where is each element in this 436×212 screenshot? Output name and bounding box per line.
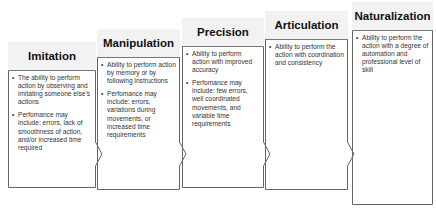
stage-articulation: Articulation Ability to perform the acti… bbox=[265, 11, 348, 190]
stage-description: Ability to perform the action with a deg… bbox=[356, 34, 429, 79]
stage-precision: Precision Ability to perform action with… bbox=[182, 18, 264, 188]
stage-description: The ability to perform action by observi… bbox=[12, 74, 92, 157]
stage-title: Manipulation bbox=[97, 29, 180, 58]
stage-outline bbox=[352, 2, 433, 205]
stage-title: Naturalization bbox=[352, 2, 433, 31]
stage-naturalization: Naturalization Ability to perform the ac… bbox=[352, 2, 433, 205]
bullet-item: Ability to perform action by memory or b… bbox=[101, 61, 176, 85]
stage-title: Imitation bbox=[8, 42, 96, 71]
stage-title: Articulation bbox=[265, 11, 348, 40]
stage-imitation: Imitation The ability to perform action … bbox=[8, 42, 96, 188]
bullet-item: Ability to perform action with improved … bbox=[186, 50, 260, 74]
bullet-item: Ability to perform the action with a deg… bbox=[356, 34, 429, 74]
stage-title: Precision bbox=[182, 18, 264, 47]
bullet-item: Perfomance may include: few errors, well… bbox=[186, 79, 260, 128]
stage-description: Ability to perform the action with coord… bbox=[269, 43, 344, 72]
bullet-item: Ability to perform the action with coord… bbox=[269, 43, 344, 67]
stage-manipulation: Manipulation Ability to perform action b… bbox=[97, 29, 180, 190]
stage-description: Ability to perform action by memory or b… bbox=[101, 61, 176, 144]
stage-description: Ability to perform action with improved … bbox=[186, 50, 260, 133]
bullet-item: The ability to perform action by observi… bbox=[12, 74, 92, 106]
bullet-item: Perfomance may include: errors, variatio… bbox=[101, 90, 176, 139]
bullet-item: Perfomance may include: errors, lack of … bbox=[12, 111, 92, 151]
